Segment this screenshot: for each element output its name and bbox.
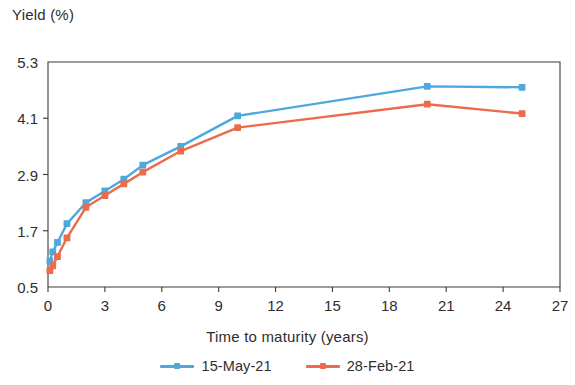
series-line <box>50 104 522 270</box>
data-point-marker <box>120 180 127 187</box>
legend-item-1[interactable]: 15-May-21 <box>160 358 271 374</box>
data-point-marker <box>139 162 146 169</box>
legend-item-2[interactable]: 28-Feb-21 <box>306 358 415 374</box>
data-point-marker <box>234 113 241 120</box>
data-point-marker <box>101 192 108 199</box>
legend-swatch-icon <box>306 360 340 372</box>
yield-curve-chart: Yield (%) 0.51.72.94.15.3 03691215182124… <box>0 0 575 385</box>
data-series-2 <box>47 101 526 274</box>
data-series-1 <box>47 83 526 265</box>
series-line <box>50 86 522 261</box>
data-point-marker <box>519 84 526 91</box>
data-point-marker <box>49 263 56 270</box>
data-point-marker <box>519 110 526 117</box>
legend-swatch-icon <box>160 360 194 372</box>
chart-legend: 15-May-2128-Feb-21 <box>0 358 575 374</box>
data-point-marker <box>54 253 61 260</box>
legend-label: 28-Feb-21 <box>347 358 415 374</box>
data-point-marker <box>234 124 241 131</box>
plot-frame <box>48 62 560 287</box>
data-point-marker <box>64 234 71 241</box>
data-point-marker <box>64 220 71 227</box>
legend-label: 15-May-21 <box>201 358 271 374</box>
data-point-marker <box>139 169 146 176</box>
data-point-marker <box>424 83 431 90</box>
data-point-marker <box>177 148 184 155</box>
data-point-marker <box>424 101 431 108</box>
x-axis-title: Time to maturity (years) <box>0 328 575 345</box>
data-point-marker <box>54 239 61 246</box>
data-point-marker <box>83 204 90 211</box>
